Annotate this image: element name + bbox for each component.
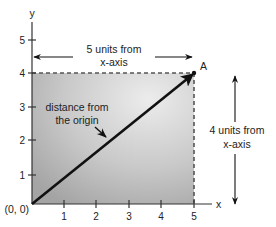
vertical-distance-label-line1: 4 units from bbox=[210, 124, 265, 136]
y-tick-label-3: 3 bbox=[19, 102, 25, 113]
x-tick-label-2: 2 bbox=[93, 211, 99, 222]
x-tick-label-4: 4 bbox=[158, 211, 164, 222]
coordinate-diagram: 1 2 3 4 5 1 2 3 4 5 y x (0, 0) A 5 units… bbox=[0, 0, 276, 227]
y-tick-label-2: 2 bbox=[19, 135, 25, 146]
vector-caption-line2: the origin bbox=[55, 114, 98, 126]
x-tick-label-1: 1 bbox=[61, 211, 67, 222]
horizontal-distance-label-line2: x-axis bbox=[100, 56, 127, 68]
y-tick-label-4: 4 bbox=[19, 68, 25, 79]
x-tick-label-3: 3 bbox=[126, 211, 132, 222]
vector-caption-line1: distance from bbox=[45, 101, 108, 113]
horizontal-distance-label-line1: 5 units from bbox=[87, 43, 142, 55]
point-a-label: A bbox=[200, 60, 207, 72]
x-tick-label-5: 5 bbox=[191, 211, 197, 222]
vertical-distance-label-line2: x-axis bbox=[223, 138, 250, 150]
y-tick-label-1: 1 bbox=[19, 170, 25, 181]
origin-label: (0, 0) bbox=[4, 203, 29, 215]
y-tick-label-5: 5 bbox=[19, 35, 25, 46]
x-axis-label: x bbox=[216, 198, 222, 210]
y-axis-label: y bbox=[29, 7, 35, 19]
point-a-dot bbox=[192, 71, 196, 75]
